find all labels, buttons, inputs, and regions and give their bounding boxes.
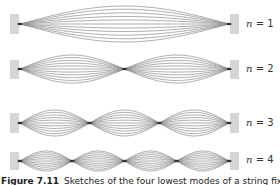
n-symbol: n	[246, 117, 252, 128]
node-point	[157, 122, 162, 124]
node-point	[226, 23, 231, 25]
caption-number: Figure 7.11	[1, 176, 59, 185]
n-symbol: n	[246, 63, 252, 74]
node-point	[17, 68, 22, 70]
mode-label-3: n = 3	[246, 117, 274, 128]
node-point	[226, 122, 231, 124]
node-point	[17, 122, 22, 124]
wave-envelope-curve	[20, 24, 229, 42]
caption-text: Sketches of the four lowest modes of a s…	[64, 176, 280, 185]
figure-caption: Figure 7.11Sketches of the four lowest m…	[1, 176, 280, 185]
mode-number: = 1	[256, 18, 274, 29]
wave-envelope-curve	[20, 6, 229, 24]
node-point	[226, 68, 231, 70]
node-point	[174, 160, 179, 162]
node-point	[122, 160, 127, 162]
mode-label-1: n = 1	[246, 18, 274, 29]
mode-number: = 3	[256, 117, 274, 128]
node-point	[17, 160, 22, 162]
mode-label-2: n = 2	[246, 63, 274, 74]
standing-wave-diagram	[0, 0, 280, 185]
standing-wave-figure: n = 1 n = 2 n = 3 n = 4 Figure 7.11Sketc…	[0, 0, 280, 185]
node-point	[226, 160, 231, 162]
mode-number: = 2	[256, 63, 274, 74]
node-point	[70, 160, 75, 162]
node-point	[122, 68, 127, 70]
n-symbol: n	[246, 18, 252, 29]
n-symbol: n	[246, 154, 252, 165]
node-point	[17, 23, 22, 25]
mode-label-4: n = 4	[246, 154, 274, 165]
mode-number: = 4	[256, 154, 274, 165]
node-point	[87, 122, 92, 124]
